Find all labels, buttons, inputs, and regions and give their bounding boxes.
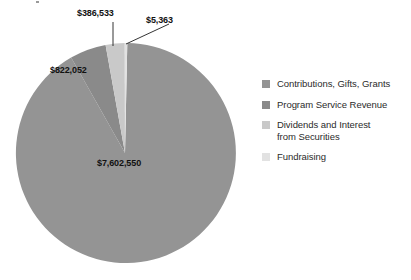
leader-line-fundraising	[126, 24, 169, 44]
legend-item-label-line1: Dividends and Interest	[277, 119, 370, 130]
legend-swatch-icon	[262, 153, 270, 161]
legend-swatch-icon	[262, 80, 270, 88]
legend-item-contributions[interactable]: Contributions, Gifts, Grants	[262, 78, 410, 90]
chart-legend: Contributions, Gifts, Grants Program Ser…	[262, 78, 410, 172]
pie-chart-figure: $386,533 $5,363 $822,052 $7,602,550 Cont…	[0, 0, 411, 280]
legend-item-dividends-interest[interactable]: Dividends and Interest from Securities	[262, 119, 410, 142]
value-label-fundraising: $5,363	[146, 15, 173, 25]
legend-item-label: Fundraising	[277, 151, 326, 163]
legend-item-program-service-revenue[interactable]: Program Service Revenue	[262, 99, 410, 111]
legend-item-label: Contributions, Gifts, Grants	[277, 78, 390, 90]
legend-swatch-icon	[262, 121, 270, 129]
legend-item-fundraising[interactable]: Fundraising	[262, 151, 410, 163]
value-label-contributions: $7,602,550	[97, 158, 141, 168]
pie-plot-area: $386,533 $5,363 $822,052 $7,602,550	[0, 0, 260, 280]
pie-svg	[0, 0, 260, 280]
legend-swatch-icon	[262, 101, 270, 109]
legend-item-label: Program Service Revenue	[277, 99, 387, 111]
value-label-program-service-revenue: $822,052	[50, 65, 87, 75]
value-label-dividends: $386,533	[77, 8, 114, 18]
legend-item-label: Dividends and Interest from Securities	[277, 119, 370, 142]
legend-item-label-line2: from Securities	[277, 131, 370, 143]
